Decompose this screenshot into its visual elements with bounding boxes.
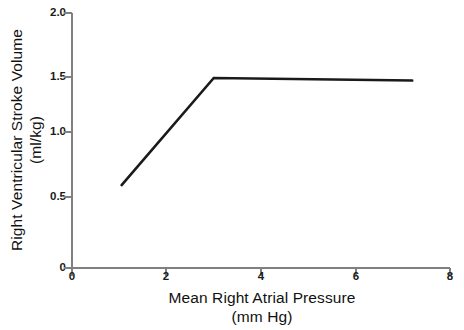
data-line-right-ventricular-function [122, 78, 413, 185]
x-tick-label-2: 2 [153, 270, 179, 282]
chart-figure: Right Ventricular Stroke Volume (ml/kg) … [0, 0, 464, 330]
x-tick-label-group: 0 2 4 6 8 [0, 270, 464, 290]
x-tick-label-8: 8 [437, 270, 463, 282]
x-tick-label-6: 6 [343, 270, 369, 282]
x-axis-title-line1: Mean Right Atrial Pressure [72, 288, 452, 307]
x-tick-label-0: 0 [59, 270, 85, 282]
x-axis-title-units: (mm Hg) [72, 307, 452, 326]
x-tick-label-4: 4 [248, 270, 274, 282]
x-axis-title: Mean Right Atrial Pressure (mm Hg) [72, 288, 452, 326]
